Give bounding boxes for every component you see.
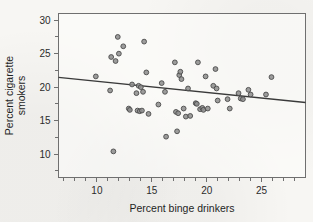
x-axis: 10152025: [64, 178, 295, 196]
data-point: [111, 149, 116, 154]
data-point: [194, 101, 199, 106]
data-point: [115, 35, 120, 40]
y-tick-label: 10: [39, 149, 51, 160]
data-point: [215, 98, 220, 103]
data-point: [172, 60, 177, 65]
data-point: [186, 86, 191, 91]
data-point: [205, 106, 210, 111]
chart-canvas: 101520251015202530Percent binge drinkers…: [0, 0, 313, 222]
data-point: [144, 70, 149, 75]
data-point: [227, 106, 232, 111]
data-point: [269, 75, 274, 80]
data-point: [264, 92, 269, 97]
data-point: [146, 112, 151, 117]
data-point: [179, 77, 184, 82]
data-point: [188, 114, 193, 119]
x-axis-title: Percent binge drinkers: [129, 202, 234, 214]
y-tick-label: 15: [39, 115, 51, 126]
data-point: [141, 89, 146, 94]
data-point: [214, 86, 219, 91]
data-point: [116, 51, 121, 56]
data-point: [196, 60, 201, 65]
data-point: [127, 107, 132, 112]
x-tick-label: 20: [201, 185, 213, 196]
data-point: [241, 97, 246, 102]
y-axis-title-line1: Percent cigarette: [3, 56, 15, 136]
x-tick-label: 10: [91, 185, 103, 196]
data-point: [176, 111, 181, 116]
data-point: [248, 92, 253, 97]
data-point: [130, 82, 135, 87]
data-point: [142, 39, 147, 44]
data-point: [225, 97, 230, 102]
data-point: [163, 89, 168, 94]
y-tick-label: 25: [39, 48, 51, 59]
data-point: [108, 88, 113, 93]
data-point: [203, 74, 208, 79]
data-point: [213, 67, 218, 72]
data-point: [164, 134, 169, 139]
y-axis: 1015202530: [39, 15, 58, 171]
data-point: [236, 91, 241, 96]
data-point: [175, 129, 180, 134]
x-tick-label: 25: [256, 185, 268, 196]
y-axis-title-line2: smokers: [15, 76, 27, 116]
data-point: [138, 85, 143, 90]
scatter-plot-figure: 101520251015202530Percent binge drinkers…: [0, 0, 313, 222]
y-tick-label: 30: [39, 15, 51, 26]
data-point: [159, 81, 164, 86]
x-tick-label: 15: [146, 185, 158, 196]
data-point: [140, 108, 145, 113]
data-point: [178, 69, 183, 74]
y-tick-label: 20: [39, 82, 51, 93]
data-point: [113, 59, 118, 64]
data-point: [121, 44, 126, 49]
data-point: [156, 102, 161, 107]
data-point: [109, 55, 114, 60]
data-point: [181, 106, 186, 111]
data-point: [246, 87, 251, 92]
data-point: [134, 91, 139, 96]
data-point: [93, 74, 98, 79]
